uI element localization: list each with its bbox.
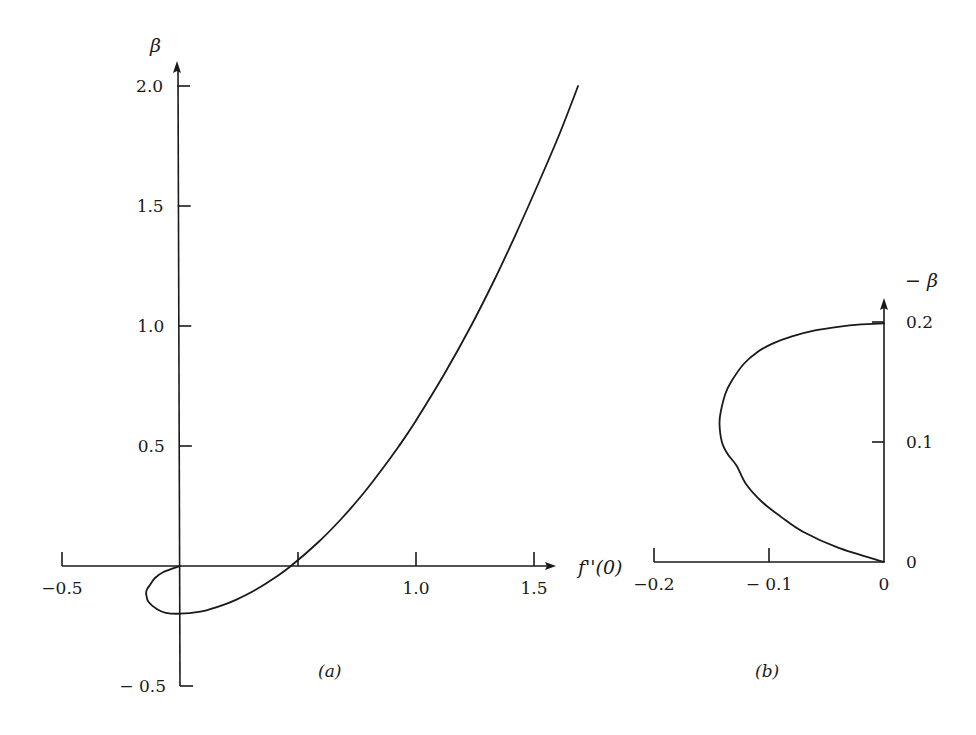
- panel-b-y-tick-label: 0.1: [906, 432, 933, 452]
- panel-b-x-tick-label: −0.2: [633, 574, 674, 594]
- panel-a-axes: −0.51.01.5− 0.50.51.01.52.0: [41, 61, 556, 696]
- panel-b-y-tick-label: 0: [906, 552, 917, 572]
- panel-b-curve: [719, 323, 884, 562]
- panel-b-axes: −0.2− 0.1000.10.2: [633, 298, 933, 594]
- panel-a: −0.51.01.5− 0.50.51.01.52.0 β f''(0) (a): [41, 34, 622, 696]
- y-axis-arrow-icon: [173, 61, 181, 73]
- panel-b-label: (b): [755, 661, 779, 681]
- panel-a-x-tick-label: 1.5: [520, 578, 547, 598]
- panel-b-y-tick-label: 0.2: [906, 312, 933, 332]
- panel-a-label: (a): [318, 661, 341, 681]
- panel-a-y-tick-label: 0.5: [138, 436, 165, 456]
- panel-a-y-tick-label: 2.0: [136, 76, 163, 96]
- panel-b-y-axis-title: − β: [905, 269, 938, 291]
- panel-a-x-tick-label: 1.0: [402, 578, 429, 598]
- figure: −0.51.01.5− 0.50.51.01.52.0 β f''(0) (a)…: [0, 0, 976, 735]
- panel-b-x-tick-label: − 0.1: [746, 574, 793, 594]
- panel-a-x-axis-title: f''(0): [576, 556, 622, 578]
- panel-a-curve: [146, 86, 578, 614]
- panel-a-y-axis-title: β: [149, 34, 161, 56]
- panel-a-y-tick-label: 1.5: [137, 196, 164, 216]
- panel-a-y-axis: [178, 70, 180, 686]
- panel-a-y-tick-label: 1.0: [137, 316, 164, 336]
- panel-b: −0.2− 0.1000.10.2 − β (b): [633, 269, 938, 681]
- panel-a-x-tick-label: −0.5: [41, 578, 82, 598]
- panel-a-y-tick-label: − 0.5: [119, 676, 166, 696]
- panel-b-x-tick-label: 0: [879, 574, 890, 594]
